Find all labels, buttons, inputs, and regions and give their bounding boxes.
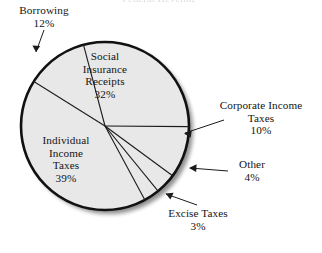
arrowhead-borrowing: [32, 46, 40, 52]
slice-label-excise-taxes: Excise Taxes 3%: [146, 207, 250, 232]
slice-label-other: Other 4%: [212, 158, 292, 183]
slice-label-individual-line3: Taxes: [24, 159, 108, 172]
slice-label-corporate-line2: Taxes: [203, 112, 319, 125]
pie-chart-figure: Federal Revenue: [0, 0, 322, 253]
slice-label-individual-percent: 39%: [24, 172, 108, 185]
slice-label-social-line1: Social: [62, 50, 148, 63]
divider-social-corporate: [105, 126, 189, 127]
slice-label-excise-name: Excise Taxes: [146, 207, 250, 220]
slice-label-corporate-percent: 10%: [203, 124, 319, 137]
slice-label-individual-income-taxes: Individual Income Taxes 39%: [24, 134, 108, 184]
slice-label-borrowing: Borrowing 12%: [2, 4, 86, 29]
slice-label-social-percent: 32%: [62, 88, 148, 101]
slice-label-social-line3: Receipts: [62, 75, 148, 88]
slice-label-other-name: Other: [212, 158, 292, 171]
slice-label-social-line2: Insurance: [62, 63, 148, 76]
slice-label-borrowing-percent: 12%: [2, 17, 86, 30]
slice-label-corporate-income-taxes: Corporate Income Taxes 10%: [203, 99, 319, 137]
slice-label-excise-percent: 3%: [146, 220, 250, 233]
slice-label-corporate-line1: Corporate Income: [203, 99, 319, 112]
slice-label-individual-line2: Income: [24, 147, 108, 160]
slice-label-social-insurance-receipts: Social Insurance Receipts 32%: [62, 50, 148, 100]
slice-label-other-percent: 4%: [212, 171, 292, 184]
slice-label-individual-line1: Individual: [24, 134, 108, 147]
slice-label-borrowing-name: Borrowing: [2, 4, 86, 17]
arrowhead-other: [189, 164, 197, 172]
